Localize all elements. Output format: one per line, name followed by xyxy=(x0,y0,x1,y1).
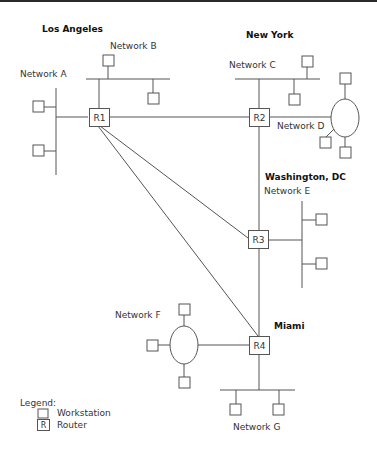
workstation-icon xyxy=(316,258,327,269)
router-r4: R4 xyxy=(249,336,270,355)
workstation-icon xyxy=(316,214,327,225)
legend-router-label: Router xyxy=(57,421,87,430)
workstation-icon xyxy=(230,404,241,415)
router-r4-label: R4 xyxy=(254,341,266,351)
legend-router-symbol: R xyxy=(41,421,47,430)
workstation-icon xyxy=(289,94,300,105)
network-c-label: Network C xyxy=(229,61,276,70)
router-r1-label: R1 xyxy=(94,113,106,123)
workstation-icon xyxy=(320,137,331,148)
network-f-label: Network F xyxy=(115,311,161,320)
workstation-icon xyxy=(147,340,158,351)
workstation-icon xyxy=(103,55,114,66)
workstation-icon xyxy=(340,73,351,84)
network-f-ring xyxy=(170,326,198,364)
workstation-icon xyxy=(273,404,284,415)
router-r3-label: R3 xyxy=(253,235,265,245)
network-a-label: Network A xyxy=(20,70,67,79)
router-r1: R1 xyxy=(89,108,110,127)
city-label-washington-dc: Washington, DC xyxy=(265,173,346,182)
city-label-new-york: New York xyxy=(246,31,293,40)
workstation-icon xyxy=(340,147,351,158)
workstation-icon xyxy=(302,56,313,67)
workstation-icon xyxy=(179,377,190,388)
workstation-icon xyxy=(33,101,44,112)
network-g-label: Network G xyxy=(233,423,280,432)
workstation-icon xyxy=(33,145,44,156)
city-label-los-angeles: Los Angeles xyxy=(42,25,103,34)
router-r2: R2 xyxy=(249,108,270,127)
router-r2-label: R2 xyxy=(254,113,266,123)
city-label-miami: Miami xyxy=(274,322,305,331)
legend-workstation-icon xyxy=(38,409,48,418)
router-r3: R3 xyxy=(248,230,269,249)
network-b-label: Network B xyxy=(110,42,157,51)
legend-title: Legend: xyxy=(20,399,56,408)
network-e-label: Network E xyxy=(264,187,310,196)
link-r1-r3 xyxy=(100,126,248,238)
workstation-icon xyxy=(179,304,190,315)
network-d-ring xyxy=(331,99,359,137)
legend-router-icon: R xyxy=(37,419,50,431)
network-d-label: Network D xyxy=(277,122,324,131)
link-r1-r4 xyxy=(98,126,258,336)
workstation-icon xyxy=(148,93,159,104)
legend-workstation-label: Workstation xyxy=(57,409,111,418)
